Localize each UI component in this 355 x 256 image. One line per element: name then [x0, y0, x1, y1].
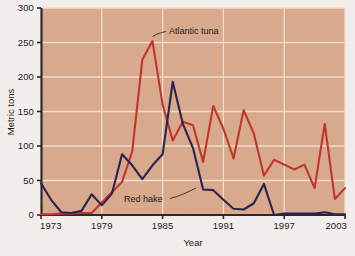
- y-axis-title: Metric tons: [5, 89, 16, 136]
- y-tick-label: 250: [18, 37, 34, 48]
- x-axis-title: Year: [183, 237, 202, 248]
- x-axis-ticks: 197319791985199119972003: [40, 215, 347, 231]
- x-tick-label: 1973: [40, 220, 62, 231]
- y-tick-label: 50: [23, 175, 34, 186]
- red-hake-label: Red hake: [124, 194, 163, 204]
- x-tick-label: 1979: [91, 220, 113, 231]
- y-axis-ticks: 050100150200250300: [18, 2, 41, 220]
- fishery-landings-line-chart: 050100150200250300 197319791985199119972…: [0, 0, 355, 256]
- y-tick-label: 0: [29, 209, 34, 220]
- chart-figure: 050100150200250300 197319791985199119972…: [0, 0, 355, 256]
- y-tick-label: 150: [18, 106, 34, 117]
- x-tick-label: 1985: [152, 220, 174, 231]
- atlantic-tuna-label: Atlantic tuna: [169, 26, 219, 36]
- y-tick-label: 100: [18, 140, 34, 151]
- x-tick-label: 1997: [273, 220, 295, 231]
- x-tick-label: 2003: [325, 220, 347, 231]
- x-tick-label: 1991: [213, 220, 235, 231]
- y-tick-label: 300: [18, 2, 34, 13]
- y-tick-label: 200: [18, 71, 34, 82]
